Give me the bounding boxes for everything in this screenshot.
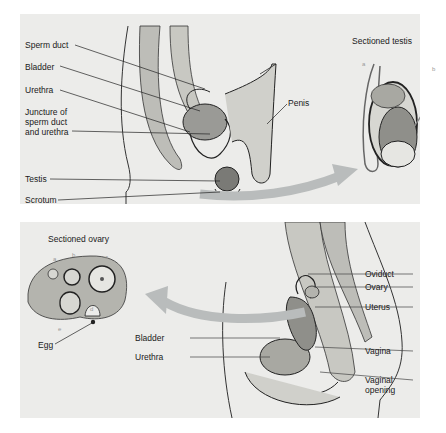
ovary-letter-c: c xyxy=(105,254,108,260)
label-ovary: Ovary xyxy=(365,282,388,292)
testis-letter-b: b xyxy=(432,66,435,72)
inset-title-sectioned-testis: Sectioned testis xyxy=(352,36,412,46)
label-vaginal-opening-line1: Vaginal xyxy=(365,375,393,385)
inset-title-sectioned-ovary: Sectioned ovary xyxy=(48,234,109,244)
label-vaginal-opening-line2: opening xyxy=(365,385,395,395)
label-vagina: Vagina xyxy=(365,346,391,356)
label-scrotum: Scrotum xyxy=(25,195,57,205)
label-egg: Egg xyxy=(38,340,53,350)
male-anatomy-panel: Sperm duct Bladder Urethra Juncture of s… xyxy=(20,14,420,204)
female-anatomy-illustration xyxy=(20,222,420,418)
label-juncture-line2: sperm duct xyxy=(25,117,67,127)
female-anatomy-panel: Sectioned ovary a b c d e Egg Bladder Ur… xyxy=(20,222,420,418)
label-urethra: Urethra xyxy=(25,85,53,95)
ovary-letter-e: e xyxy=(58,326,61,332)
label-sperm-duct: Sperm duct xyxy=(25,40,68,50)
ovary-letter-d: d xyxy=(90,306,93,312)
label-urethra-female: Urethra xyxy=(135,352,163,362)
label-oviduct: Oviduct xyxy=(365,269,394,279)
label-juncture-line1: Juncture of xyxy=(25,107,67,117)
label-bladder-female: Bladder xyxy=(135,333,164,343)
label-testis: Testis xyxy=(25,174,47,184)
testis-letter-a: a xyxy=(362,61,365,67)
label-uterus: Uterus xyxy=(365,302,390,312)
ovary-letter-b: b xyxy=(72,252,75,258)
label-penis: Penis xyxy=(288,98,309,108)
label-bladder: Bladder xyxy=(25,62,54,72)
ovary-letter-a: a xyxy=(53,256,56,262)
label-juncture-line3: and urethra xyxy=(25,127,68,137)
